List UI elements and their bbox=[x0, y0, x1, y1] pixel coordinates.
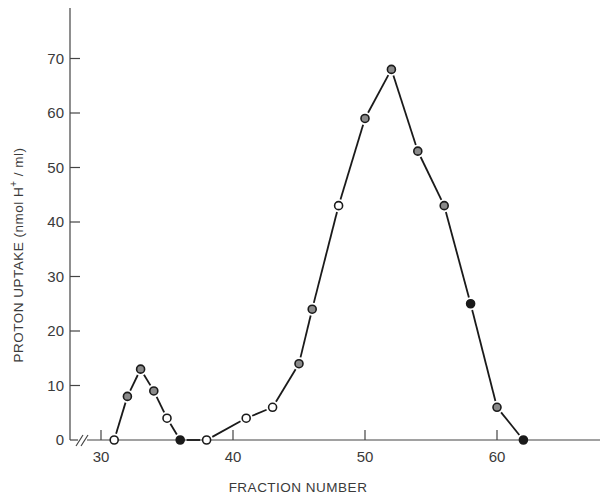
series-segment bbox=[472, 310, 495, 401]
data-point-marker bbox=[335, 202, 343, 210]
data-point-marker bbox=[295, 360, 303, 368]
y-axis-title: PROTON UPTAKE (nmol H+ / ml) bbox=[8, 147, 26, 362]
x-tick-label: 40 bbox=[225, 448, 242, 465]
data-point-marker bbox=[493, 403, 501, 411]
data-point-marker bbox=[519, 436, 527, 444]
series-segment bbox=[144, 375, 150, 386]
series-segment bbox=[393, 76, 415, 145]
data-point-marker bbox=[361, 114, 369, 122]
series-segment bbox=[501, 412, 519, 435]
data-point-marker bbox=[414, 147, 422, 155]
data-point-marker bbox=[387, 65, 395, 73]
series-segment bbox=[116, 403, 125, 434]
proton-uptake-chart: 010203040506070 30405060 FRACTION NUMBER… bbox=[0, 0, 605, 499]
data-point-marker bbox=[150, 387, 158, 395]
data-point-marker bbox=[269, 403, 277, 411]
data-point-marker bbox=[467, 300, 475, 308]
series-segment bbox=[252, 410, 266, 416]
y-tick-label: 40 bbox=[47, 213, 64, 230]
x-tick-label: 30 bbox=[93, 448, 110, 465]
axes bbox=[70, 8, 600, 446]
y-tick-label: 60 bbox=[47, 104, 64, 121]
data-point-marker bbox=[163, 414, 171, 422]
series-segment bbox=[314, 212, 337, 303]
series-segment bbox=[368, 75, 388, 113]
series-segment bbox=[421, 157, 442, 200]
data-point-marker bbox=[110, 436, 118, 444]
x-tick-label: 60 bbox=[489, 448, 506, 465]
series-segment bbox=[157, 397, 165, 413]
series-segment bbox=[212, 421, 240, 437]
data-point-marker bbox=[123, 392, 131, 400]
data-point-marker bbox=[242, 414, 250, 422]
data-point-marker bbox=[203, 436, 211, 444]
data-series bbox=[110, 65, 527, 444]
y-tick-label: 20 bbox=[47, 322, 64, 339]
series-segment bbox=[170, 424, 176, 435]
data-point-marker bbox=[308, 305, 316, 313]
x-tick-label: 50 bbox=[357, 448, 374, 465]
data-point-marker bbox=[440, 202, 448, 210]
data-point-marker bbox=[176, 436, 184, 444]
y-tick-label: 30 bbox=[47, 268, 64, 285]
series-segment bbox=[446, 212, 469, 298]
y-tick-label: 70 bbox=[47, 50, 64, 67]
data-point-marker bbox=[137, 365, 145, 373]
x-axis-ticks: 30405060 bbox=[93, 430, 506, 465]
series-segment bbox=[340, 125, 363, 200]
y-axis-ticks: 010203040506070 bbox=[47, 50, 80, 449]
series-segment bbox=[276, 369, 296, 401]
x-axis-title: FRACTION NUMBER bbox=[229, 480, 368, 495]
y-tick-label: 0 bbox=[56, 431, 64, 448]
y-tick-label: 10 bbox=[47, 377, 64, 394]
series-segment bbox=[130, 375, 138, 391]
y-tick-label: 50 bbox=[47, 159, 64, 176]
series-segment bbox=[301, 316, 311, 358]
